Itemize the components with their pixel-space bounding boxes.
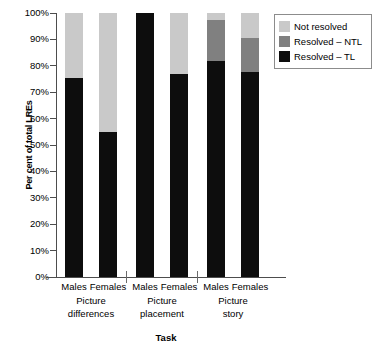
bar[interactable] [170, 13, 188, 277]
y-axis-tick-label: 60% [30, 113, 49, 125]
legend-swatch [279, 21, 290, 32]
y-axis-tick-label: 30% [30, 192, 49, 204]
bar-segment [136, 13, 154, 277]
x-axis-title: Task [56, 332, 276, 343]
legend-label: Not resolved [294, 21, 347, 32]
y-axis-tick-label: 90% [30, 33, 49, 45]
plot-area [56, 13, 276, 277]
bar[interactable] [136, 13, 154, 277]
y-axis-tick: 100% [0, 7, 56, 19]
y-axis-tick: 50% [0, 139, 56, 151]
x-axis-group-label-line: Picture [178, 295, 288, 308]
legend-label: Resolved – TL [294, 51, 355, 62]
bar-segment [65, 13, 83, 78]
y-axis-tick: 20% [0, 218, 56, 230]
y-axis-tick-label: 100% [25, 7, 49, 19]
y-axis-tick: 40% [0, 165, 56, 177]
bar[interactable] [65, 13, 83, 277]
y-axis-tick-label: 70% [30, 86, 49, 98]
y-axis-tick-label: 40% [30, 165, 49, 177]
y-axis-tick: 30% [0, 192, 56, 204]
x-axis-group-label: Picturestory [178, 295, 288, 320]
bar-segment [207, 13, 225, 20]
y-axis-tick-label: 80% [30, 60, 49, 72]
bar-segment [207, 20, 225, 61]
stacked-bar-chart: Per cent of total LREs 100%90%80%70%60%5… [0, 0, 376, 349]
y-axis-tick-label: 20% [30, 218, 49, 230]
legend-swatch [279, 51, 290, 62]
bar-segment [65, 78, 83, 277]
bar-segment [241, 13, 259, 38]
y-axis-tick-label: 10% [30, 245, 49, 257]
bar-segment [99, 13, 117, 132]
bar-segment [207, 61, 225, 277]
legend-item[interactable]: Resolved – NTL [279, 34, 367, 49]
bar-segment [241, 38, 259, 72]
bar[interactable] [241, 13, 259, 277]
bar[interactable] [207, 13, 225, 277]
legend-item[interactable]: Not resolved [279, 19, 367, 34]
y-axis-tick: 90% [0, 33, 56, 45]
x-axis-group-label-line: story [178, 308, 288, 321]
bar-segment [99, 132, 117, 277]
bar-segment [241, 72, 259, 277]
y-axis-tick-label: 50% [30, 139, 49, 151]
legend-item[interactable]: Resolved – TL [279, 49, 367, 64]
y-axis-tick: 80% [0, 60, 56, 72]
legend-swatch [279, 36, 290, 47]
chart-legend: Not resolvedResolved – NTLResolved – TL [274, 14, 372, 69]
y-axis-tick: 10% [0, 245, 56, 257]
x-axis-category-label: Females [222, 281, 278, 292]
legend-label: Resolved – NTL [294, 36, 362, 47]
bar[interactable] [99, 13, 117, 277]
bar-segment [170, 74, 188, 277]
y-axis-tick: 60% [0, 113, 56, 125]
x-axis-line [46, 277, 286, 278]
y-axis-tick: 70% [0, 86, 56, 98]
bar-segment [170, 13, 188, 74]
